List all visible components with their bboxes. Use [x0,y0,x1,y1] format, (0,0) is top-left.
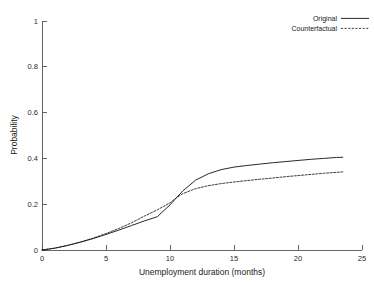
x-tick-label: 20 [294,254,302,263]
y-tick-label: 0 [34,246,38,255]
x-tick-label: 15 [230,254,238,263]
y-tick-label: 1 [34,17,38,26]
legend-label-counterfactual: Counterfactual [291,25,337,32]
x-tick-label: 25 [358,254,366,263]
x-tick-label: 0 [40,254,44,263]
x-tick-label: 10 [166,254,174,263]
y-tick-label: 0.4 [28,154,38,163]
probability-line-chart: 0 0.2 0.4 0.6 0.8 1 0 5 10 15 20 25 Unem… [0,0,374,284]
x-axis-title: Unemployment duration (months) [139,267,265,277]
y-tick-label: 0.6 [28,108,38,117]
legend-label-original: Original [313,15,338,23]
y-tick-label: 0.2 [28,200,38,209]
chart-figure: 0 0.2 0.4 0.6 0.8 1 0 5 10 15 20 25 Unem… [0,0,374,284]
y-tick-label: 0.8 [28,62,38,71]
x-tick-label: 5 [104,254,108,263]
chart-background [0,0,374,284]
y-axis-title: Probability [9,114,19,154]
